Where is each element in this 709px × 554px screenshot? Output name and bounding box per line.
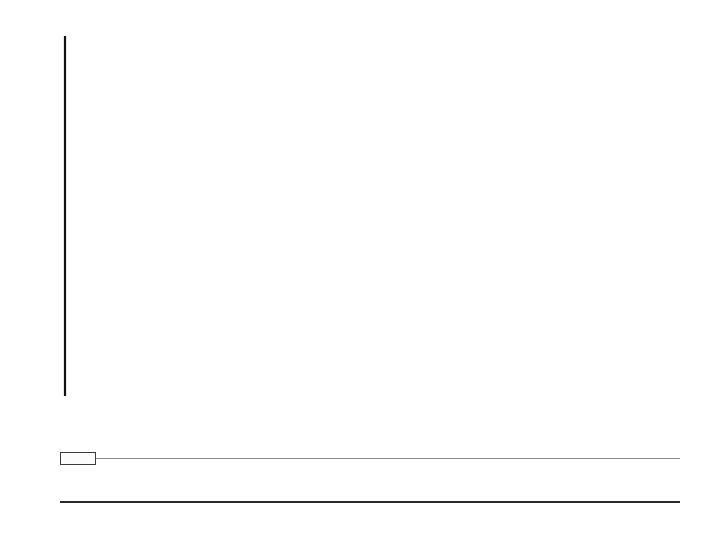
legend-rule xyxy=(60,458,680,459)
line-chart-svg xyxy=(0,0,709,430)
data-table xyxy=(0,470,709,554)
legend-swatch xyxy=(60,452,96,465)
chart-plot-area xyxy=(0,0,709,430)
table-divider xyxy=(60,501,680,503)
chart-page xyxy=(0,0,709,554)
